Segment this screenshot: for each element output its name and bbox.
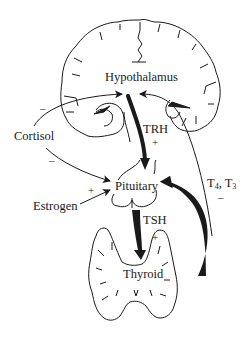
- tsh-arrowhead: [134, 250, 146, 260]
- t4t3-sign: –: [218, 192, 224, 203]
- feedback-diagram: [0, 0, 249, 340]
- trh-sign: +: [152, 137, 158, 148]
- cortisol-hypothalamus-sign: –: [40, 103, 46, 114]
- cortisol-label: Cortisol: [14, 130, 54, 143]
- estrogen-sign: +: [88, 185, 94, 196]
- cortisol-pituitary-arrow: [46, 148, 110, 181]
- thyroid-pituitary-feedback-arrow: [168, 182, 208, 276]
- trh-arrowhead: [140, 158, 150, 170]
- t4t3-label: T4, T3: [207, 177, 236, 191]
- hypothalamus-label: Hypothalamus: [105, 71, 178, 84]
- tsh-sign: +: [152, 232, 158, 243]
- cortisol-pituitary-sign: –: [49, 155, 55, 166]
- estrogen-label: Estrogen: [33, 200, 77, 213]
- cortisol-hypothalamus-arrow: [34, 94, 122, 126]
- t4-label: T: [207, 176, 215, 190]
- estrogen-pituitary-arrow: [80, 190, 110, 204]
- tsh-arrow: [132, 210, 142, 250]
- pituitary-label: Pituitary: [115, 180, 158, 193]
- thyroid-label: Thyroid: [123, 268, 163, 281]
- trh-label: TRH: [143, 123, 168, 136]
- tsh-label: TSH: [143, 214, 167, 227]
- t3-subscript: 3: [232, 182, 236, 191]
